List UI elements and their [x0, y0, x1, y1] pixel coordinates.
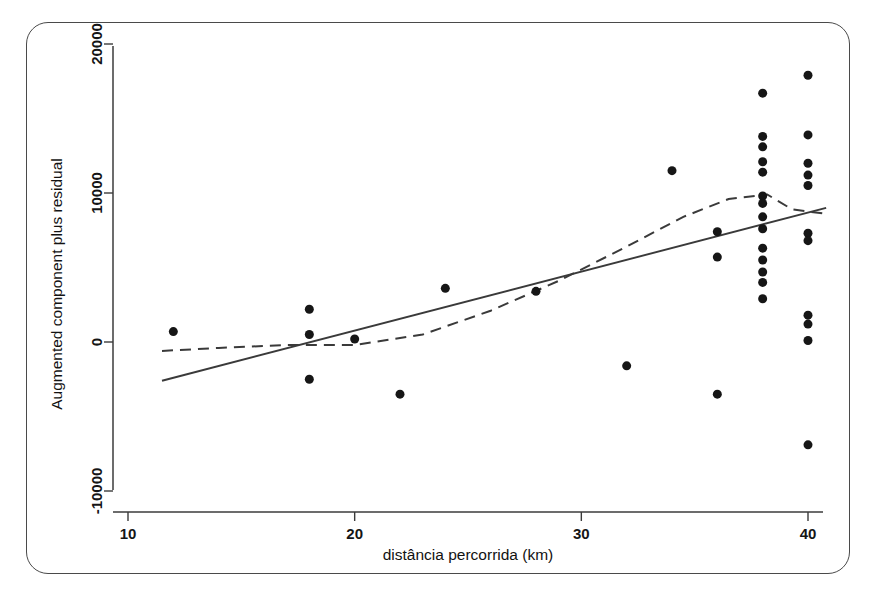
data-point [804, 181, 813, 190]
data-point [305, 305, 314, 314]
data-point [758, 142, 767, 151]
data-point [622, 361, 631, 370]
data-point [758, 132, 767, 141]
y-tick-label: -10000 [88, 468, 105, 515]
data-point [804, 320, 813, 329]
data-point [758, 199, 767, 208]
data-point [758, 224, 767, 233]
data-point [804, 311, 813, 320]
data-point [758, 212, 767, 221]
data-point [804, 440, 813, 449]
y-axis-title: Augmented component plus residual [48, 158, 65, 410]
data-point [668, 166, 677, 175]
data-point [396, 390, 405, 399]
data-point [804, 159, 813, 168]
axes-group [113, 46, 823, 512]
data-point [758, 278, 767, 287]
data-point [713, 253, 722, 262]
data-point [804, 130, 813, 139]
data-point-group [169, 71, 813, 450]
data-point [758, 89, 767, 98]
data-point [804, 236, 813, 245]
data-point [532, 287, 541, 296]
data-point [758, 157, 767, 166]
y-tick-label: 0 [88, 338, 105, 346]
x-tick-label: 20 [346, 525, 363, 542]
data-point [758, 256, 767, 265]
fit-line-group [162, 194, 826, 380]
x-tick-label: 30 [573, 525, 590, 542]
data-point [758, 244, 767, 253]
y-tick-label: 10000 [88, 172, 105, 214]
figure-container: -1000001000020000 10203040 distância per… [0, 0, 878, 599]
scatter-plot: -1000001000020000 10203040 distância per… [0, 0, 878, 599]
x-tick-label: 10 [120, 525, 137, 542]
x-tick-label: 40 [800, 525, 817, 542]
x-tick-group: 10203040 [120, 512, 817, 542]
x-axis-title: distância percorrida (km) [383, 546, 554, 563]
smooth-curve [162, 194, 826, 350]
data-point [441, 284, 450, 293]
data-point [350, 335, 359, 344]
data-point [713, 390, 722, 399]
data-point [305, 330, 314, 339]
data-point [713, 227, 722, 236]
data-point [758, 168, 767, 177]
y-tick-label: 20000 [88, 23, 105, 65]
data-point [169, 327, 178, 336]
regression-line [162, 208, 826, 381]
data-point [804, 336, 813, 345]
data-point [804, 171, 813, 180]
data-point [305, 375, 314, 384]
data-point [758, 267, 767, 276]
y-tick-group: -1000001000020000 [88, 23, 114, 514]
data-point [804, 71, 813, 80]
data-point [758, 294, 767, 303]
